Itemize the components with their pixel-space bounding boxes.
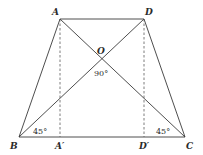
angle-O-label: 90°: [94, 69, 108, 78]
segment-DC: [144, 19, 185, 137]
label-C: C: [186, 141, 194, 151]
label-A-prime: A′: [54, 141, 65, 151]
label-D-prime: D′: [138, 141, 150, 151]
angle-C-label: 45°: [156, 127, 170, 136]
diagonal-BD: [19, 19, 144, 137]
label-B: B: [9, 141, 18, 151]
label-O: O: [97, 46, 105, 56]
diagonal-AC: [60, 19, 185, 137]
segment-AB: [19, 19, 60, 137]
label-D: D: [144, 7, 153, 17]
angle-B-label: 45°: [33, 127, 47, 136]
label-A: A: [51, 7, 59, 17]
trapezoid-diagram: A D O B C A′ D′ 90° 45° 45°: [0, 0, 203, 155]
